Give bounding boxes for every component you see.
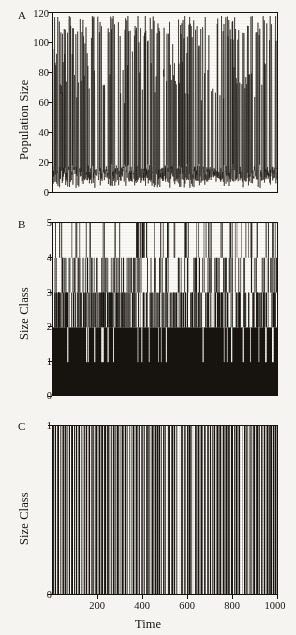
panel-b-data-trace bbox=[53, 223, 278, 396]
panel-b-tickmark bbox=[48, 396, 52, 397]
panel-c-xtick-200: 200 bbox=[89, 601, 105, 612]
panel-c-xtickmark bbox=[277, 595, 278, 599]
panel-c-letter: C bbox=[18, 421, 26, 432]
panel-b-plot-area bbox=[52, 222, 278, 396]
panel-b-letter: B bbox=[18, 219, 26, 230]
panel-a-ytick-40: 40 bbox=[39, 128, 50, 139]
panel-c-xlabel: Time bbox=[0, 617, 296, 632]
panel-a-ytick-100: 100 bbox=[33, 38, 49, 49]
panel-a-plot-area bbox=[52, 12, 278, 193]
panel-c-xtick-400: 400 bbox=[134, 601, 150, 612]
figure-panel-group: A Population Size 120 100 80 60 40 20 0 … bbox=[0, 0, 296, 635]
panel-c-xtick-800: 800 bbox=[224, 601, 240, 612]
panel-c-xtick-600: 600 bbox=[179, 601, 195, 612]
panel-a-ytick-120: 120 bbox=[33, 9, 49, 20]
panel-c-data-trace bbox=[53, 426, 278, 595]
panel-c-xtickmark bbox=[97, 595, 98, 599]
panel-c-xtickmark bbox=[142, 595, 143, 599]
panel-c-xtick-1000: 1000 bbox=[265, 601, 286, 612]
panel-c-ylabel: Size Class bbox=[17, 492, 32, 545]
panel-a-ytick-0: 0 bbox=[44, 188, 49, 199]
panel-c-xtickmark bbox=[232, 595, 233, 599]
panel-a-ylabel: Population Size bbox=[17, 80, 32, 160]
panel-a-data-trace bbox=[53, 13, 278, 193]
panel-c-plot-area bbox=[52, 425, 278, 595]
panel-c-xtickmark bbox=[187, 595, 188, 599]
panel-b-ylabel: Size Class bbox=[17, 287, 32, 340]
panel-a-ytick-20: 20 bbox=[39, 158, 50, 169]
panel-a-letter: A bbox=[18, 10, 26, 21]
panel-a-ytick-80: 80 bbox=[39, 68, 50, 79]
panel-a-ytick-60: 60 bbox=[39, 98, 50, 109]
